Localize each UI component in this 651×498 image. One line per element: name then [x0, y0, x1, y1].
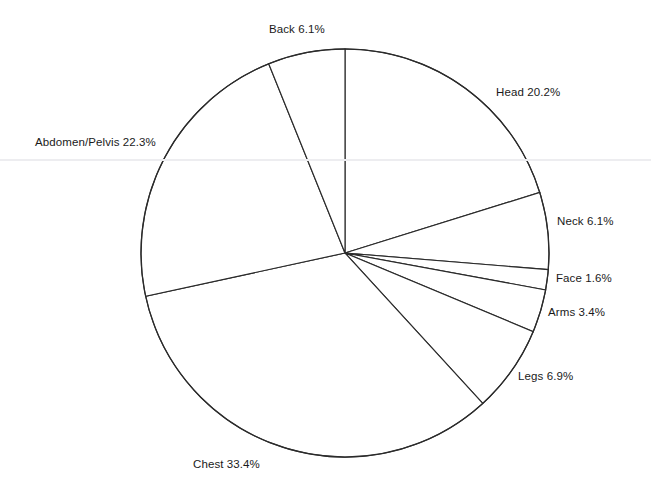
pie-chart-canvas — [0, 0, 651, 498]
pie-label-face: Face 1.6% — [556, 272, 612, 285]
pie-label-arms: Arms 3.4% — [548, 306, 605, 319]
pie-label-abdomen-pelvis: Abdomen/Pelvis 22.3% — [35, 136, 156, 149]
pie-label-head: Head 20.2% — [496, 86, 560, 99]
pie-label-back: Back 6.1% — [269, 23, 325, 36]
pie-slice-group — [141, 49, 549, 457]
pie-label-neck: Neck 6.1% — [557, 215, 614, 228]
pie-label-chest: Chest 33.4% — [193, 458, 260, 471]
pie-chart-figure: Head 20.2%Neck 6.1%Face 1.6%Arms 3.4%Leg… — [0, 0, 651, 498]
pie-label-legs: Legs 6.9% — [518, 370, 573, 383]
